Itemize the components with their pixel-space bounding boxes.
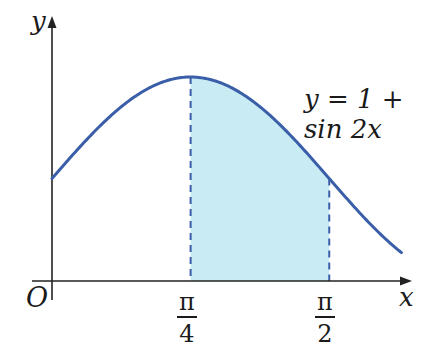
x-tick-denominator: 4 (179, 318, 194, 343)
function-label: y = 1 + sin 2x (304, 84, 445, 144)
x-axis-label: x (399, 282, 414, 312)
y-axis-label: y (31, 6, 46, 36)
graph-canvas (0, 0, 445, 343)
x-tick-pi-over-2: π 2 (315, 290, 335, 343)
y-axis-arrow-icon (48, 16, 57, 28)
x-tick-numerator: π (315, 290, 335, 318)
x-tick-numerator: π (177, 290, 197, 318)
origin-label: O (26, 282, 48, 313)
x-tick-denominator: 2 (317, 318, 332, 343)
x-tick-pi-over-4: π 4 (177, 290, 197, 343)
